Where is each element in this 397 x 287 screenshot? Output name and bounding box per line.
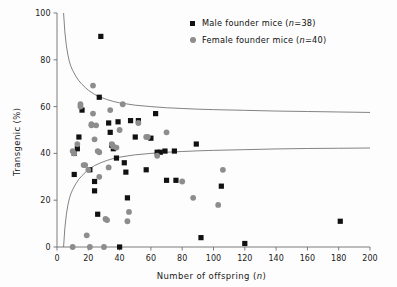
data-point-male (125, 195, 130, 200)
data-point-female (101, 244, 107, 250)
legend-item-male: Male founder mice (n=38) (190, 18, 326, 28)
data-point-male (115, 119, 120, 124)
data-point-female (74, 141, 80, 147)
x-tick-label: 60 (146, 254, 156, 263)
x-tick-label: 180 (331, 254, 346, 263)
data-point-female (90, 111, 96, 117)
legend-item-female-label: Female founder mice (n=40) (202, 35, 326, 45)
data-point-female (215, 202, 221, 208)
data-point-female (190, 195, 196, 201)
x-tick-label: 40 (115, 254, 125, 263)
data-point-female (90, 83, 96, 89)
legend-female-suffix: =40) (305, 35, 326, 45)
data-point-male (162, 148, 167, 153)
data-point-male (95, 212, 100, 217)
data-point-female (126, 209, 132, 215)
data-point-female (164, 129, 170, 135)
data-point-female (92, 136, 98, 142)
data-point-female (78, 101, 84, 107)
legend-male-prefix: Male founder mice ( (202, 18, 289, 28)
data-point-female (96, 149, 102, 155)
y-tick-label: 0 (45, 243, 50, 252)
data-point-male (153, 111, 158, 116)
data-point-female (107, 107, 113, 113)
x-tick-label: 140 (268, 254, 283, 263)
data-point-female (96, 174, 102, 180)
x-tick-label: 100 (206, 254, 221, 263)
x-tick-label: 0 (54, 254, 59, 263)
data-point-male (76, 134, 81, 139)
data-point-female (87, 244, 93, 250)
data-point-male (122, 160, 127, 165)
x-tick-label: 160 (300, 254, 315, 263)
data-point-male (97, 95, 102, 100)
x-tick-label: 20 (83, 254, 93, 263)
data-point-male (133, 134, 138, 139)
data-point-male (172, 148, 177, 153)
data-point-female (104, 217, 110, 223)
data-point-male (128, 118, 133, 123)
x-tick-label: 80 (177, 254, 187, 263)
data-point-male (194, 141, 199, 146)
data-point-male (123, 170, 128, 175)
data-point-male (114, 155, 119, 160)
x-axis-title-suffix: ) (262, 271, 266, 281)
data-point-male (242, 241, 247, 246)
data-point-female (179, 179, 185, 185)
lower-confidence-bound-curve (64, 148, 370, 247)
data-point-male (92, 188, 97, 193)
scatter-plot-figure: 020406080100120140160180200020406080100 … (0, 0, 397, 287)
data-point-male (338, 219, 343, 224)
data-point-female (106, 165, 112, 171)
data-point-female (145, 134, 151, 140)
data-point-male (108, 130, 113, 135)
data-point-female (93, 122, 99, 128)
data-point-female (71, 151, 77, 157)
y-tick-label: 100 (35, 9, 50, 18)
data-point-female (85, 167, 91, 173)
data-point-male (117, 244, 122, 249)
data-point-male (144, 167, 149, 172)
chart-legend: Male founder mice (n=38) Female founder … (190, 18, 326, 52)
y-tick-label: 20 (40, 196, 50, 205)
square-marker-icon (190, 21, 195, 26)
y-axis-title-text: Transgenic (%) (12, 107, 22, 176)
legend-item-female: Female founder mice (n=40) (190, 35, 326, 45)
data-point-female (117, 127, 123, 133)
data-point-female (135, 120, 141, 126)
x-tick-label: 120 (237, 254, 252, 263)
data-point-male (164, 178, 169, 183)
data-point-female (125, 218, 131, 224)
data-point-male (72, 172, 77, 177)
legend-female-prefix: Female founder mice ( (202, 35, 300, 45)
circle-marker-icon (190, 37, 196, 43)
data-point-male (219, 184, 224, 189)
y-tick-label: 60 (40, 103, 50, 112)
data-point-male (198, 235, 203, 240)
y-tick-label: 40 (40, 149, 50, 158)
data-point-female (84, 232, 90, 238)
data-point-male (98, 34, 103, 39)
data-point-male (92, 179, 97, 184)
legend-male-suffix: =38) (294, 18, 315, 28)
x-axis-title-prefix: Number of offspring ( (157, 271, 257, 281)
data-point-female (220, 167, 226, 173)
x-axis-title: Number of offspring (n) (0, 271, 397, 281)
data-point-male (106, 120, 111, 125)
legend-item-male-label: Male founder mice (n=38) (202, 18, 316, 28)
x-tick-label: 200 (362, 254, 377, 263)
y-axis-title: Transgenic (%) (12, 107, 22, 176)
data-point-female (70, 244, 76, 250)
data-point-male (173, 178, 178, 183)
y-tick-label: 80 (40, 56, 50, 65)
data-point-female (120, 101, 126, 107)
data-point-female (114, 145, 120, 151)
data-point-female (154, 153, 160, 159)
